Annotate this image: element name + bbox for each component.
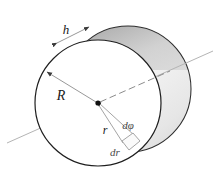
center-point-dot (95, 100, 100, 105)
label-radius-R: R (56, 88, 66, 103)
diagram-canvas: h R r dφ dr (0, 0, 219, 178)
cylinder-polar-element-figure: h R r dφ dr (0, 0, 219, 178)
label-d-phi: dφ (122, 119, 134, 131)
label-height-h: h (63, 22, 70, 37)
label-element-radius-r: r (103, 123, 108, 137)
label-d-r: dr (110, 146, 121, 158)
